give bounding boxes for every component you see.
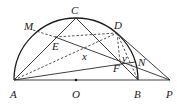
- label-x: x: [81, 50, 87, 62]
- chord-AD: [14, 33, 117, 80]
- label-M: M: [23, 20, 34, 32]
- chord-CB: [76, 18, 138, 80]
- segment-DF: [117, 33, 120, 62]
- label-E: E: [51, 40, 59, 52]
- segment-ME: [33, 30, 55, 37]
- label-F: F: [112, 62, 120, 74]
- label-C: C: [71, 4, 79, 16]
- label-B: B: [134, 88, 141, 100]
- label-N: N: [137, 56, 146, 68]
- label-D: D: [113, 19, 122, 31]
- geometry-diagram: A O B P C M D E F N x y: [0, 0, 183, 105]
- center-point-O: [75, 79, 78, 82]
- label-A: A: [9, 88, 17, 100]
- segment-DB: [117, 33, 138, 80]
- segment-ED: [55, 33, 117, 37]
- label-P: P: [165, 88, 173, 100]
- label-O: O: [72, 88, 80, 100]
- label-y: y: [121, 52, 127, 64]
